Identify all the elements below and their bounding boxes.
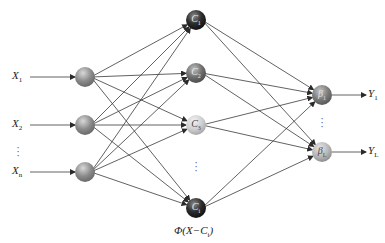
- output-node-label-1: β1: [318, 89, 326, 101]
- input-hidden-edge: [91, 125, 188, 202]
- hidden-output-edge: [202, 125, 312, 150]
- input-label-3: Xn: [12, 165, 22, 179]
- input-node-1: [75, 67, 95, 87]
- hidden-output-edge: [202, 102, 315, 208]
- hidden-node-label-2: C2: [191, 67, 201, 79]
- hidden-output-edge: [202, 156, 313, 208]
- input-hidden-edge: [91, 80, 189, 172]
- input-node-3: [75, 162, 95, 182]
- input-hidden-edge: [91, 172, 187, 205]
- input-ellipsis: ···: [15, 145, 21, 157]
- activation-function-label: Φ(X−Ci): [174, 225, 213, 239]
- input-hidden-edge: [91, 77, 190, 200]
- output-ellipsis: ···: [319, 116, 325, 128]
- hidden-output-edge: [202, 20, 315, 145]
- hidden-node-label-1: C1: [191, 14, 201, 26]
- input-hidden-edge: [91, 77, 187, 125]
- hidden-output-edge: [202, 73, 314, 147]
- input-label-2: X2: [12, 118, 22, 132]
- input-hidden-edge: [91, 77, 187, 121]
- input-hidden-edge: [91, 25, 187, 77]
- hidden-ellipsis: ···: [193, 160, 199, 172]
- output-label-2: YL: [368, 145, 378, 159]
- input-hidden-edge: [91, 73, 186, 77]
- hidden-output-edge: [202, 73, 312, 93]
- output-label-1: Y1: [368, 88, 378, 102]
- hidden-node-label-3: C3: [191, 119, 201, 131]
- input-node-2: [75, 115, 95, 135]
- output-node-label-2: βL: [318, 146, 327, 158]
- input-label-1: X1: [12, 70, 22, 84]
- hidden-output-edge: [202, 20, 314, 90]
- hidden-output-edge: [202, 97, 312, 125]
- input-hidden-edge: [91, 27, 189, 125]
- hidden-node-label-4: Ci: [192, 202, 200, 214]
